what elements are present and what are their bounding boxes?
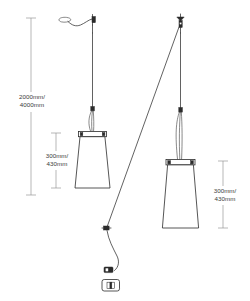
pendant-shade-left xyxy=(75,132,110,189)
dim-shade-left-label-2: 430mm xyxy=(47,160,68,167)
dimension-drawing: 2000mm/ 4000mm 300mm/ 430mm 300mm/ 430mm xyxy=(0,0,250,301)
cable-adjuster-left xyxy=(89,107,95,132)
cable-adjuster-right xyxy=(176,108,182,160)
dimension-shade-height-right: 300mm/ 430mm xyxy=(204,161,248,228)
dim-drop-height-label-1: 2000mm/ xyxy=(19,93,45,100)
dim-shade-right-label-2: 430mm xyxy=(215,195,236,202)
inline-switch-icon xyxy=(104,267,113,273)
ceiling-bracket-icon xyxy=(92,15,95,34)
pendant-shade-right xyxy=(162,160,198,229)
dim-drop-height-label-2: 4000mm xyxy=(20,101,44,108)
power-plug-icon xyxy=(102,280,120,292)
ceiling-rose-icon xyxy=(59,17,92,25)
cable-connector-node xyxy=(102,226,111,230)
dim-shade-right-label-1: 300mm/ xyxy=(214,187,237,194)
lamp-dimension-svg: 2000mm/ 4000mm 300mm/ 430mm 300mm/ 430mm xyxy=(0,0,250,301)
dim-shade-left-label-1: 300mm/ xyxy=(46,152,69,159)
dimension-shade-height-left: 300mm/ 430mm xyxy=(36,133,78,188)
power-cord xyxy=(107,231,118,271)
